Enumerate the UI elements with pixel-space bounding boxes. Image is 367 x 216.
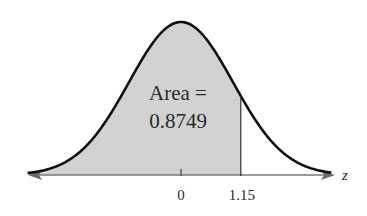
tick-label-zero: 0 bbox=[177, 187, 185, 203]
tick-label-boundary: 1.15 bbox=[229, 187, 255, 203]
shaded-area bbox=[28, 22, 241, 175]
area-annotation-line1: Area = bbox=[149, 81, 207, 105]
axis-label-z: z bbox=[341, 167, 348, 183]
normal-curve-chart: 0 1.15 z Area = 0.8749 bbox=[0, 0, 367, 216]
area-annotation-line2: 0.8749 bbox=[149, 109, 207, 133]
